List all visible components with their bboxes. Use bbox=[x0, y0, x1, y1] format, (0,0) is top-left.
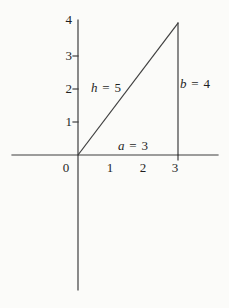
figure-page: 1 2 3 4 0 1 2 3 h = 5 b = 4 a bbox=[0, 0, 229, 308]
y-tick-label-3: 3 bbox=[66, 48, 73, 63]
x-tick-label-2: 2 bbox=[140, 160, 147, 175]
x-tick-label-3: 3 bbox=[172, 160, 179, 175]
base-label-eq: = bbox=[129, 138, 136, 153]
hypotenuse-label-var: h bbox=[91, 80, 98, 95]
vertical-side-label-var: b bbox=[180, 76, 187, 91]
y-tick-label-1: 1 bbox=[66, 114, 73, 129]
hypotenuse-label-eq: = bbox=[102, 80, 109, 95]
hypotenuse-label: h = 5 bbox=[91, 80, 121, 95]
hypotenuse-label-val: 5 bbox=[114, 80, 121, 95]
base-label-val: 3 bbox=[141, 138, 148, 153]
paper-background bbox=[0, 0, 229, 308]
x-tick-label-1: 1 bbox=[107, 160, 114, 175]
y-tick-label-2: 2 bbox=[66, 81, 73, 96]
base-label-var: a bbox=[118, 138, 125, 153]
base-label: a = 3 bbox=[118, 138, 148, 153]
vertical-side-label-eq: = bbox=[191, 76, 198, 91]
y-tick-label-4: 4 bbox=[66, 12, 73, 27]
vertical-side-label: b = 4 bbox=[180, 76, 210, 91]
vertical-side-label-val: 4 bbox=[203, 76, 210, 91]
triangle-diagram: 1 2 3 4 0 1 2 3 h = 5 b = 4 a bbox=[0, 0, 229, 308]
origin-label: 0 bbox=[63, 160, 70, 175]
